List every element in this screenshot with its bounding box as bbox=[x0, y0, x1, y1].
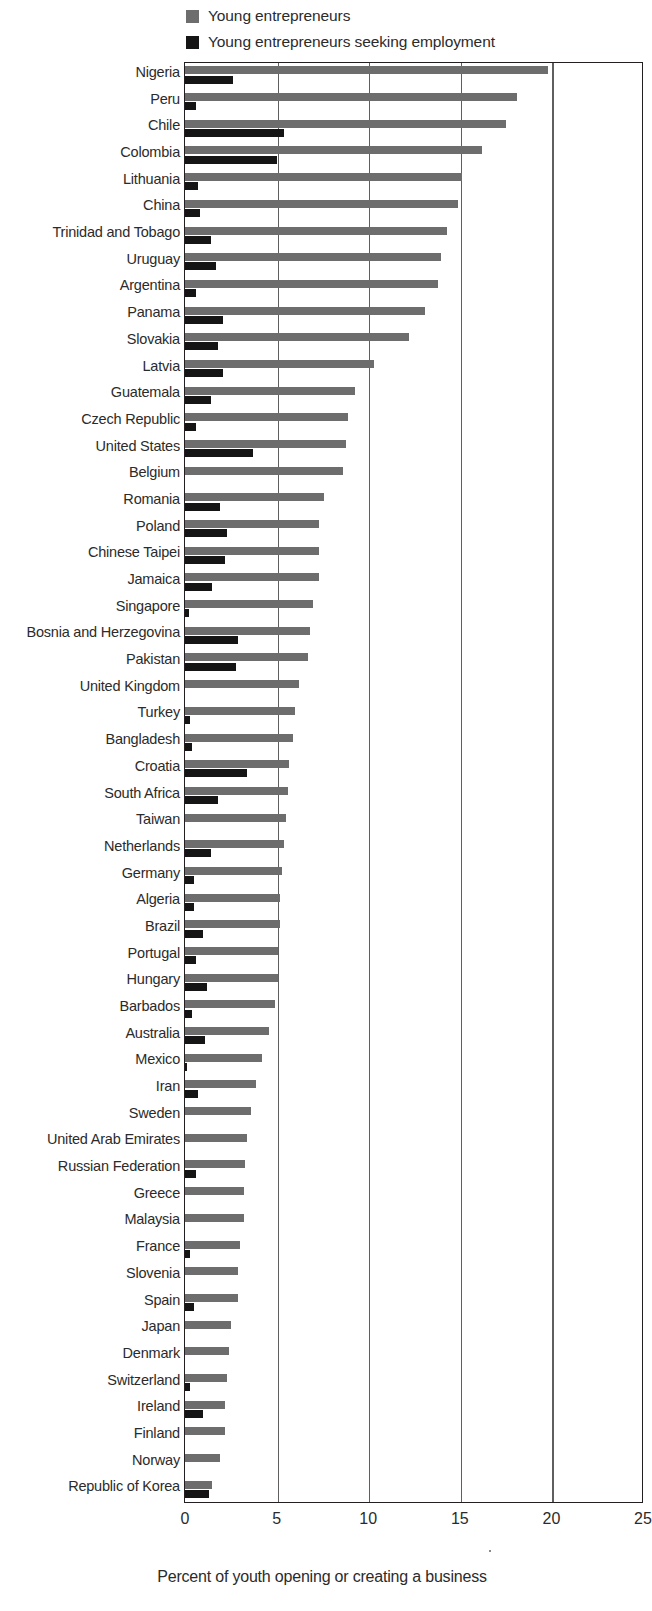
category-label: United Arab Emirates bbox=[0, 1131, 180, 1147]
bar-young-entrepreneurs bbox=[185, 1454, 220, 1462]
category-label: Colombia bbox=[0, 144, 180, 160]
bar-young-entrepreneurs bbox=[185, 1160, 245, 1168]
category-label: Mexico bbox=[0, 1051, 180, 1067]
bar-row: Denmark bbox=[0, 1343, 644, 1368]
bar-young-entrepreneurs bbox=[185, 120, 506, 128]
category-label: Jamaica bbox=[0, 571, 180, 587]
bar-young-entrepreneurs bbox=[185, 307, 425, 315]
category-label: Belgium bbox=[0, 464, 180, 480]
bar-row: Nigeria bbox=[0, 62, 644, 87]
bar-row: Chinese Taipei bbox=[0, 542, 644, 567]
bar-young-entrepreneurs bbox=[185, 787, 288, 795]
bar-young-entrepreneurs-seeking-employment bbox=[185, 129, 284, 137]
bar-young-entrepreneurs-seeking-employment bbox=[185, 609, 189, 617]
bar-young-entrepreneurs bbox=[185, 1481, 212, 1489]
category-label: Switzerland bbox=[0, 1372, 180, 1388]
bar-young-entrepreneurs-seeking-employment bbox=[185, 1303, 194, 1311]
bar-row: Trinidad and Tobago bbox=[0, 222, 644, 247]
bar-young-entrepreneurs bbox=[185, 146, 482, 154]
legend-item-young-entrepreneurs-seeking-employment: Young entrepreneurs seeking employment bbox=[186, 33, 495, 51]
bar-young-entrepreneurs-seeking-employment bbox=[185, 636, 238, 644]
bar-row: Croatia bbox=[0, 756, 644, 781]
bar-row: China bbox=[0, 195, 644, 220]
bar-row: Lithuania bbox=[0, 169, 644, 194]
bar-young-entrepreneurs-seeking-employment bbox=[185, 876, 194, 884]
bar-young-entrepreneurs-seeking-employment bbox=[185, 262, 216, 270]
bar-row: Chile bbox=[0, 115, 644, 140]
bar-young-entrepreneurs bbox=[185, 413, 348, 421]
category-label: Pakistan bbox=[0, 651, 180, 667]
category-label: Romania bbox=[0, 491, 180, 507]
legend-label: Young entrepreneurs bbox=[208, 7, 350, 25]
bar-young-entrepreneurs bbox=[185, 573, 319, 581]
bar-row: Argentina bbox=[0, 275, 644, 300]
category-label: Finland bbox=[0, 1425, 180, 1441]
bar-young-entrepreneurs bbox=[185, 1107, 251, 1115]
bar-young-entrepreneurs-seeking-employment bbox=[185, 1250, 190, 1258]
category-label: Croatia bbox=[0, 758, 180, 774]
bar-young-entrepreneurs-seeking-employment bbox=[185, 930, 203, 938]
category-label: Bosnia and Herzegovina bbox=[0, 624, 180, 640]
category-label: Peru bbox=[0, 91, 180, 107]
bar-row: Algeria bbox=[0, 889, 644, 914]
bar-row: Romania bbox=[0, 489, 644, 514]
bar-young-entrepreneurs bbox=[185, 1427, 225, 1435]
category-label: United States bbox=[0, 438, 180, 454]
category-label: Guatemala bbox=[0, 384, 180, 400]
category-label: Greece bbox=[0, 1185, 180, 1201]
bar-young-entrepreneurs-seeking-employment bbox=[185, 716, 190, 724]
category-label: Argentina bbox=[0, 277, 180, 293]
bar-young-entrepreneurs bbox=[185, 93, 517, 101]
bar-young-entrepreneurs bbox=[185, 200, 458, 208]
category-label: Slovakia bbox=[0, 331, 180, 347]
bar-young-entrepreneurs-seeking-employment bbox=[185, 1490, 209, 1498]
bar-young-entrepreneurs bbox=[185, 627, 310, 635]
legend-label: Young entrepreneurs seeking employment bbox=[208, 33, 495, 51]
bar-row: South Africa bbox=[0, 783, 644, 808]
bar-young-entrepreneurs-seeking-employment bbox=[185, 1170, 196, 1178]
category-label: Trinidad and Tobago bbox=[0, 224, 180, 240]
bar-row: Australia bbox=[0, 1023, 644, 1048]
category-label: Latvia bbox=[0, 358, 180, 374]
bar-row: Panama bbox=[0, 302, 644, 327]
bar-young-entrepreneurs-seeking-employment bbox=[185, 956, 196, 964]
bar-row: Greece bbox=[0, 1183, 644, 1208]
bar-young-entrepreneurs bbox=[185, 440, 346, 448]
bar-young-entrepreneurs bbox=[185, 600, 313, 608]
bar-young-entrepreneurs bbox=[185, 360, 374, 368]
chart-legend: Young entrepreneurs Young entrepreneurs … bbox=[0, 0, 644, 58]
bar-row: Uruguay bbox=[0, 249, 644, 274]
bar-row: Czech Republic bbox=[0, 409, 644, 434]
bar-row: Guatemala bbox=[0, 382, 644, 407]
bar-young-entrepreneurs-seeking-employment bbox=[185, 449, 253, 457]
bar-young-entrepreneurs bbox=[185, 920, 280, 928]
category-label: Lithuania bbox=[0, 171, 180, 187]
x-tick-label: 5 bbox=[272, 1510, 281, 1528]
bar-row: Sweden bbox=[0, 1103, 644, 1128]
bar-row: Bangladesh bbox=[0, 729, 644, 754]
category-label: China bbox=[0, 197, 180, 213]
category-label: Denmark bbox=[0, 1345, 180, 1361]
bar-young-entrepreneurs-seeking-employment bbox=[185, 743, 192, 751]
bar-row: Turkey bbox=[0, 702, 644, 727]
scan-speck bbox=[489, 1550, 491, 1552]
category-label: Spain bbox=[0, 1292, 180, 1308]
category-label: Netherlands bbox=[0, 838, 180, 854]
bar-young-entrepreneurs bbox=[185, 814, 286, 822]
bar-young-entrepreneurs-seeking-employment bbox=[185, 156, 277, 164]
category-label: Sweden bbox=[0, 1105, 180, 1121]
bar-young-entrepreneurs bbox=[185, 707, 295, 715]
bar-young-entrepreneurs-seeking-employment bbox=[185, 769, 247, 777]
bar-young-entrepreneurs bbox=[185, 947, 278, 955]
category-label: Taiwan bbox=[0, 811, 180, 827]
bar-young-entrepreneurs bbox=[185, 1241, 240, 1249]
category-label: Chinese Taipei bbox=[0, 544, 180, 560]
bar-row: United Arab Emirates bbox=[0, 1129, 644, 1154]
category-label: Czech Republic bbox=[0, 411, 180, 427]
category-label: South Africa bbox=[0, 785, 180, 801]
bar-chart: NigeriaPeruChileColombiaLithuaniaChinaTr… bbox=[0, 58, 644, 1510]
bar-row: Slovenia bbox=[0, 1263, 644, 1288]
bar-row: Taiwan bbox=[0, 809, 644, 834]
bar-row: Colombia bbox=[0, 142, 644, 167]
bar-young-entrepreneurs-seeking-employment bbox=[185, 102, 196, 110]
